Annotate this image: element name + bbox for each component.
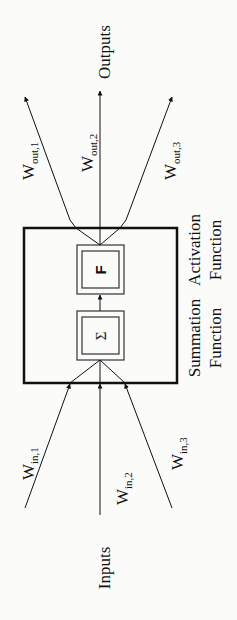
svg-text:Function: Function [206,307,225,368]
weight-in-3: Win,3 [168,437,189,470]
weight-in-1: Win,1 [19,447,40,480]
svg-text:Win,3: Win,3 [168,437,189,470]
weight-out-1: Wout,1 [19,142,40,180]
neuron-diagram: F Σ Outputs Inputs Inputs Wout,1 [0,0,237,620]
input-arrows [25,384,172,515]
inputs-label-text: Inputs [95,547,114,590]
output-arrows [25,91,172,228]
activation-symbol: F [92,265,109,274]
svg-text:Activation: Activation [185,214,204,286]
weight-out-2: Wout,2 [78,134,99,172]
internal-fan-out [76,228,120,245]
svg-text:Win,2: Win,2 [113,472,134,505]
summation-symbol: Σ [93,332,109,341]
svg-text:Win,1: Win,1 [19,447,40,480]
activation-caption: Activation Function [185,214,225,286]
svg-text:Wout,2: Wout,2 [78,134,99,172]
weight-out-3: Wout,3 [161,141,182,180]
svg-text:Wout,1: Wout,1 [19,142,40,180]
svg-text:Summation: Summation [185,298,204,377]
activation-block: F [77,245,124,294]
weight-in-2: Win,2 [113,472,134,505]
svg-text:Wout,3: Wout,3 [161,141,182,180]
outputs-label: Outputs [95,25,114,79]
summation-caption: Summation Function [185,298,225,377]
input-arrow-1 [25,384,70,508]
internal-fan-in [70,360,125,383]
svg-text:Function: Function [206,219,225,280]
output-arrow-3 [120,97,172,228]
summation-block: Σ [77,311,124,360]
